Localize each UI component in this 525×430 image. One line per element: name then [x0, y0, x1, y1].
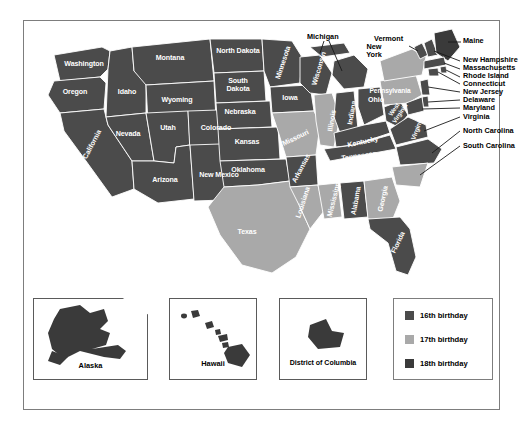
state-shape-rhodeisland — [440, 66, 447, 73]
inset-alaska: Alaska — [33, 298, 148, 380]
state-label-montana: Montana — [146, 55, 194, 63]
callout-label-vermont: Vermont — [374, 35, 403, 43]
dc-shape — [280, 299, 366, 379]
leader-maryland — [422, 108, 460, 109]
legend-swatch-16-icon — [405, 311, 414, 320]
legend-item-16: 16th birthday — [405, 311, 468, 320]
state-label-ohio: Ohio — [362, 97, 390, 105]
leader-connecticut — [438, 72, 460, 84]
callout-label-virginia: Virginia — [463, 113, 490, 121]
inset-caption-alaska: Alaska — [34, 361, 147, 370]
us-map: Washington Oregon California Idaho Monta… — [24, 21, 501, 291]
callout-label-maryland: Maryland — [463, 104, 495, 112]
state-label-southdakota: South Dakota — [216, 77, 260, 94]
state-label-iowa: Iowa — [276, 95, 304, 103]
state-shape-southcarolina — [392, 163, 428, 187]
legend-swatch-17-icon — [405, 335, 414, 344]
state-label-wyoming: Wyoming — [154, 97, 200, 105]
state-label-northdakota: North Dakota — [216, 47, 260, 55]
legend: 16th birthday 17th birthday 18th birthda… — [393, 298, 493, 380]
callout-label-maine: Maine — [463, 37, 484, 45]
state-label-idaho: Idaho — [110, 89, 144, 97]
callout-label-northcarolina: North Carolina — [463, 127, 514, 135]
state-label-arizona: Arizona — [142, 177, 188, 185]
state-label-pennsylvania: Pennsylvania — [362, 87, 418, 95]
legend-item-18: 18th birthday — [405, 359, 468, 368]
legend-label-16: 16th birthday — [420, 311, 468, 320]
state-label-utah: Utah — [152, 125, 184, 133]
state-label-nevada: Nevada — [106, 131, 150, 139]
state-shape-michigan-up — [310, 43, 350, 57]
legend-item-17: 17th birthday — [405, 335, 468, 344]
legend-label-17: 17th birthday — [420, 335, 468, 344]
inset-row: Alaska Hawaii District o — [24, 293, 501, 411]
state-shape-connecticut — [428, 68, 439, 76]
callout-label-southcarolina: South Carolina — [463, 142, 515, 150]
state-label-nebraska: Nebraska — [214, 109, 266, 117]
state-shape-northdakota — [210, 39, 264, 73]
leader-newjersey — [428, 87, 460, 92]
inset-caption-dc: District of Columbia — [280, 359, 366, 366]
figure-frame: Washington Oregon California Idaho Monta… — [23, 20, 500, 410]
inset-hawaii: Hawaii — [169, 298, 257, 380]
callout-label-michigan: Michigan — [307, 33, 339, 41]
state-label-colorado: Colorado — [192, 125, 240, 133]
state-label-oklahoma: Oklahoma — [222, 167, 274, 175]
inset-dc: District of Columbia — [279, 298, 367, 380]
state-label-kansas: Kansas — [224, 139, 270, 147]
leader-virginia — [424, 117, 460, 131]
inset-caption-hawaii: Hawaii — [170, 359, 256, 368]
leader-northcarolina — [432, 131, 460, 153]
state-label-washington: Washington — [58, 61, 110, 69]
leader-rhodeisland — [446, 70, 460, 77]
callout-label-newyork: New York — [361, 43, 387, 59]
state-label-texas: Texas — [228, 229, 266, 237]
legend-label-18: 18th birthday — [420, 359, 468, 368]
legend-swatch-18-icon — [405, 359, 414, 368]
state-label-oregon: Oregon — [52, 89, 98, 97]
leader-delaware — [428, 100, 460, 102]
